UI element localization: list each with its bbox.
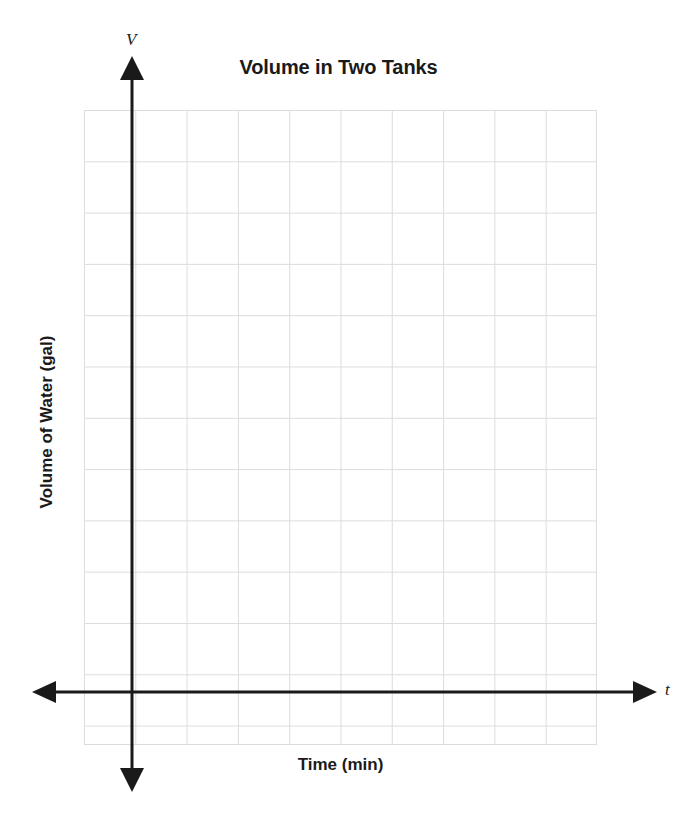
coordinate-grid (84, 110, 597, 745)
x-axis-title: Time (min) (84, 755, 597, 775)
x-axis-variable-label: t (665, 680, 670, 700)
arrow-right-icon (633, 681, 657, 703)
y-axis-title: Volume of Water (gal) (37, 317, 57, 527)
arrow-left-icon (32, 681, 56, 703)
worksheet-graph-page: Volume in Two Tanks V t Time (min) Volum… (0, 0, 691, 827)
y-axis-variable-label: V (126, 30, 136, 50)
chart-title: Volume in Two Tanks (0, 56, 691, 79)
